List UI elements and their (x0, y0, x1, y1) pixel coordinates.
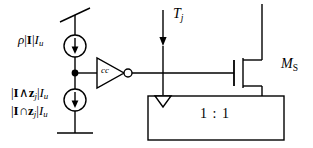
ms-subscript: S (293, 63, 298, 73)
current-source-top-label: ρ|I|Iu (18, 33, 43, 48)
intersection-operator: ∩ (19, 103, 28, 118)
and-operator: ∧ (19, 85, 29, 100)
tj-current-arrow (159, 10, 166, 46)
mosfet-ms (234, 4, 262, 96)
mosfet-label: MS (281, 57, 298, 73)
tj-subscript: j (181, 13, 184, 23)
unit-current-subscript: u (44, 91, 48, 101)
ms-symbol: M (281, 56, 293, 71)
inverter-output-bubble (124, 69, 132, 77)
current-source-bottom-label-line2: |I∩zj|Iu (11, 104, 48, 119)
current-source-top (64, 35, 86, 57)
unit-current-subscript: u (39, 38, 43, 48)
tj-symbol: T (173, 6, 181, 21)
current-source-bottom (64, 89, 86, 111)
supply-rail-symbol (60, 8, 90, 28)
tj-current-label: Tj (173, 7, 183, 23)
unit-current-subscript: u (43, 109, 47, 119)
circuit-diagram: ρ|I|Iu |I∧zj|Iu |I∩zj|Iu cc Tj MS 1 : 1 (0, 0, 313, 148)
circuit-schematic-canvas (0, 0, 313, 148)
mirror-ratio-label: 1 : 1 (200, 107, 230, 121)
current-source-bottom-label-line1: |I∧zj|Iu (11, 86, 48, 101)
inverter-label: cc (101, 65, 109, 75)
